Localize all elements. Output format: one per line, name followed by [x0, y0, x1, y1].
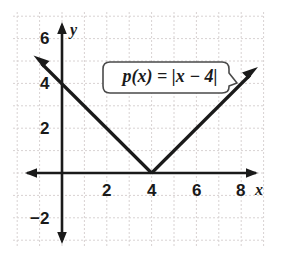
x-tick-label-8: 8	[236, 182, 245, 199]
y-tick-label-minus-2: −2	[30, 210, 49, 227]
x-axis-label: x	[255, 182, 263, 198]
y-tick-label-4: 4	[40, 75, 49, 92]
x-tick-label-2: 2	[102, 182, 111, 199]
equation-label: p(x) = |x − 4|	[110, 67, 230, 85]
grid-lines	[13, 12, 265, 248]
x-tick-label-4: 4	[147, 182, 156, 199]
y-axis	[57, 22, 67, 244]
y-tick-label-2: 2	[40, 120, 49, 137]
y-tick-label-6: 6	[40, 30, 49, 47]
y-axis-label: y	[70, 22, 77, 38]
graph-figure: 6 4 2 −2 2 4 6 8 y x p(x) = |x − 4|	[0, 0, 283, 254]
x-axis	[25, 168, 258, 178]
x-tick-label-6: 6	[192, 182, 201, 199]
